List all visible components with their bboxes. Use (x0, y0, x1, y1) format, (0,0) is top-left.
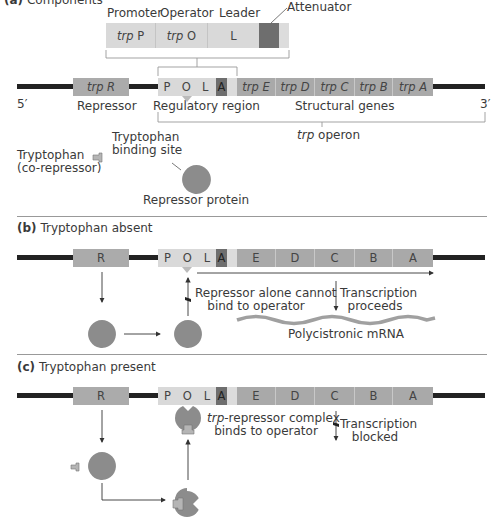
diagram-graphics (0, 0, 504, 517)
repressor-protein-icon (174, 320, 202, 348)
repressor-protein-icon (182, 165, 211, 194)
operator-marker (182, 267, 192, 273)
repressor-protein-icon (88, 320, 116, 348)
operator-marker (182, 96, 192, 102)
attenuator-pointer (271, 8, 287, 23)
tryptophan-icon (71, 463, 79, 471)
bound-complex-icon (175, 405, 201, 434)
mrna-wave (237, 317, 435, 324)
components-bracket (106, 50, 289, 76)
combine-arrow (102, 483, 165, 500)
tryptophan-icon (93, 153, 102, 162)
operon-bracket (158, 112, 485, 127)
repressor-protein-icon (88, 452, 116, 480)
trp-repressor-complex-icon (173, 488, 200, 517)
binding-site-pointer (172, 163, 181, 170)
